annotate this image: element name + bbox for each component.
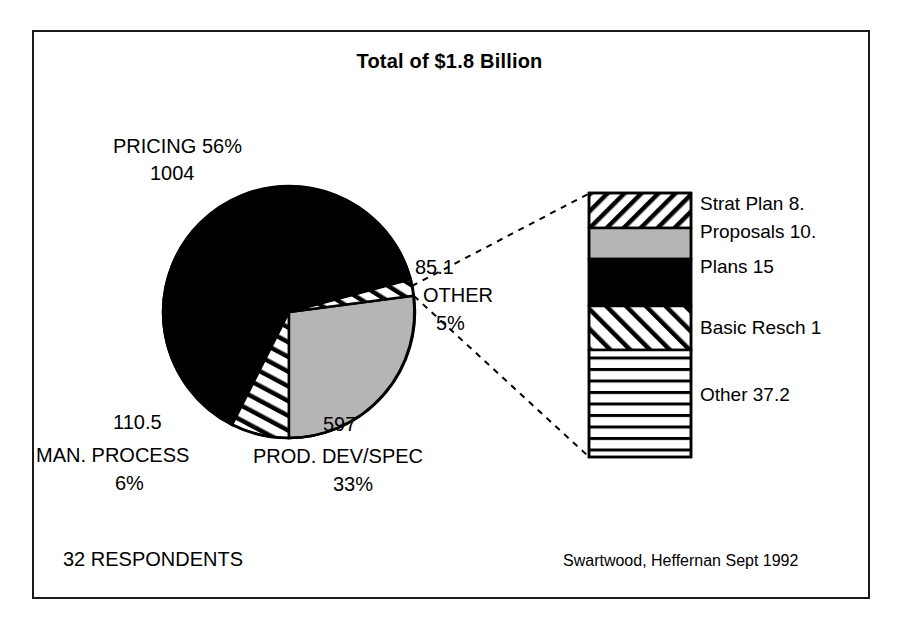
pie-pct-prod-dev: 33% bbox=[333, 472, 373, 496]
bar-segment-plans bbox=[589, 259, 691, 306]
pie-label-other: OTHER bbox=[423, 283, 493, 307]
pie-pct-other: 5% bbox=[436, 311, 465, 335]
chart-canvas: Total of $1.8 Billion bbox=[0, 0, 899, 633]
pie-label-prod-dev: PROD. DEV/SPEC bbox=[253, 444, 423, 468]
pie-label-pricing: PRICING 56% bbox=[113, 134, 242, 158]
attribution-note: Swartwood, Heffernan Sept 1992 bbox=[563, 552, 798, 570]
bar-label-basic-resch: Basic Resch 1 bbox=[700, 317, 821, 339]
bar-label-other: Other 37.2 bbox=[700, 384, 790, 406]
pie-value-pricing: 1004 bbox=[150, 161, 195, 185]
pie-pct-man-process: 6% bbox=[115, 471, 144, 495]
bar-segment-other bbox=[589, 350, 691, 457]
bar-segment-strat-plan bbox=[589, 193, 691, 228]
bar-label-plans: Plans 15 bbox=[700, 256, 774, 278]
pie-value-man-process: 110.5 bbox=[113, 410, 162, 434]
breakout-bar bbox=[589, 193, 691, 457]
pie-value-prod-dev: 597 bbox=[323, 412, 356, 436]
bar-label-strat-plan: Strat Plan 8. bbox=[700, 193, 805, 215]
pie-chart bbox=[163, 186, 415, 438]
pie-label-man-process: MAN. PROCESS bbox=[36, 443, 189, 467]
bar-segment-proposals bbox=[589, 228, 691, 259]
pie-value-other: 85.1 bbox=[415, 255, 454, 279]
bar-label-proposals: Proposals 10. bbox=[700, 221, 816, 243]
bar-segment-basic-resch bbox=[589, 306, 691, 350]
respondents-note: 32 RESPONDENTS bbox=[63, 548, 243, 571]
